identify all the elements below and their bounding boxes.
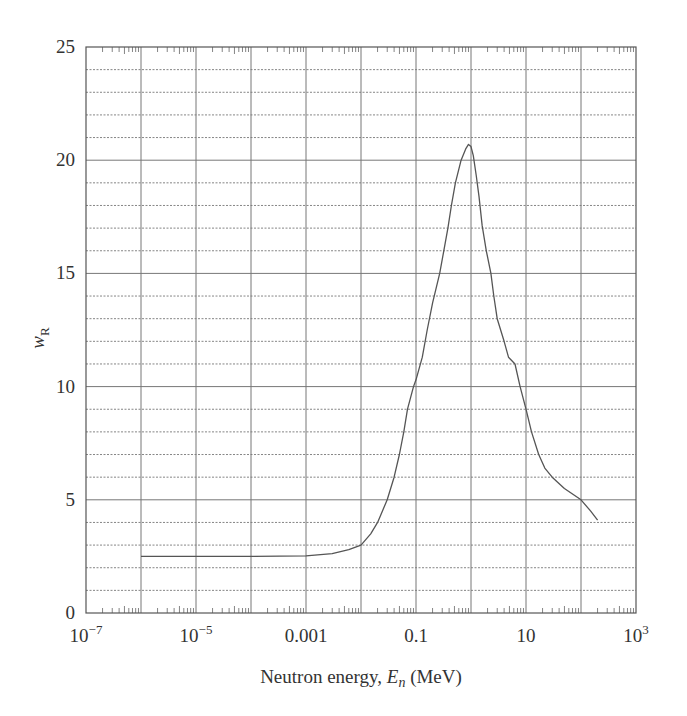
y-axis-tick-labels: 0510152025 bbox=[56, 36, 75, 623]
x-tick-label: 10−7 bbox=[70, 622, 103, 646]
grid-lines bbox=[86, 47, 636, 613]
y-tick-label: 0 bbox=[66, 602, 76, 623]
x-axis-title: Neutron energy, En (MeV) bbox=[260, 666, 462, 690]
x-axis-tick-labels: 10−710−50.0010.110103 bbox=[70, 622, 649, 646]
minor-x-ticks bbox=[103, 47, 634, 613]
x-tick-label: 0.001 bbox=[285, 625, 328, 646]
data-series-wR bbox=[141, 144, 598, 556]
x-tick-label: 103 bbox=[623, 622, 649, 646]
y-axis-title: wR bbox=[27, 327, 52, 349]
y-tick-label: 10 bbox=[56, 376, 75, 397]
y-tick-label: 5 bbox=[66, 489, 76, 510]
x-tick-label: 10−5 bbox=[180, 622, 213, 646]
y-tick-label: 15 bbox=[56, 262, 75, 283]
y-tick-label: 20 bbox=[56, 149, 75, 170]
x-tick-label: 0.1 bbox=[404, 625, 428, 646]
x-tick-label: 10 bbox=[517, 625, 536, 646]
chart: 0510152025 10−710−50.0010.110103 wR Neut… bbox=[0, 0, 687, 716]
y-tick-label: 25 bbox=[56, 36, 75, 57]
